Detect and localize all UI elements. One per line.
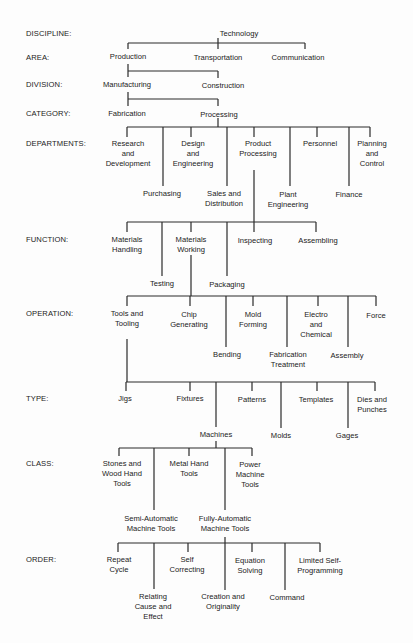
hierarchy-node: Force [366, 311, 385, 321]
hierarchy-node: Creation and Originality [201, 592, 244, 612]
hierarchy-node: Transportation [194, 53, 243, 63]
hierarchy-node: Relating Cause and Effect [135, 592, 172, 622]
hierarchy-node: Stones and Wood Hand Tools [102, 459, 142, 489]
hierarchy-node: Technology [220, 29, 258, 39]
level-label: DISCIPLINE: [26, 29, 71, 38]
hierarchy-node: Product Processing [239, 139, 277, 159]
level-label: AREA: [26, 53, 49, 62]
hierarchy-node: Testing [150, 279, 174, 289]
hierarchy-node: Fabrication Treatment [269, 350, 307, 370]
hierarchy-node: Manufacturing [103, 80, 151, 90]
hierarchy-node: Fully-Automatic Machine Tools [199, 514, 251, 534]
hierarchy-node: Dies and Punches [357, 395, 387, 415]
hierarchy-node: Semi-Automatic Machine Tools [124, 514, 178, 534]
hierarchy-node: Research and Development [106, 139, 151, 169]
hierarchy-node: Construction [202, 81, 245, 91]
hierarchy-node: Bending [213, 350, 241, 360]
level-label: OPERATION: [26, 309, 73, 318]
hierarchy-node: Inspecting [238, 236, 273, 246]
hierarchy-node: Purchasing [143, 189, 181, 199]
hierarchy-node: Electro and Chemical [300, 310, 332, 340]
level-label: TYPE: [26, 394, 48, 403]
hierarchy-node: Limited Self- Programming [297, 556, 343, 576]
hierarchy-node: Templates [299, 395, 334, 405]
hierarchy-node: Planning and Control [357, 139, 387, 169]
hierarchy-node: Fixtures [176, 394, 203, 404]
hierarchy-node: Materials Working [176, 235, 207, 255]
hierarchy-node: Plant Engineering [268, 190, 309, 210]
hierarchy-node: Communication [272, 53, 325, 63]
hierarchy-node: Finance [335, 190, 362, 200]
hierarchy-node: Patterns [238, 395, 266, 405]
hierarchy-node: Gages [336, 431, 358, 441]
hierarchy-node: Molds [271, 431, 291, 441]
hierarchy-node: Materials Handling [112, 235, 143, 255]
level-label: DIVISION: [26, 80, 62, 89]
hierarchy-node: Repeat Cycle [107, 555, 132, 575]
hierarchy-node: Mold Forming [239, 310, 267, 330]
level-label: ORDER: [26, 555, 56, 564]
hierarchy-node: Production [110, 52, 146, 62]
hierarchy-node: Tools and Tooling [111, 309, 144, 329]
hierarchy-node: Chip Generating [170, 310, 208, 330]
hierarchy-node: Metal Hand Tools [170, 459, 209, 479]
hierarchy-node: Design and Engineering [173, 139, 214, 169]
hierarchy-node: Equation Solving [235, 556, 265, 576]
hierarchy-node: Power Machine Tools [236, 460, 265, 490]
hierarchy-node: Sales and Distribution [205, 189, 243, 209]
level-label: FUNCTION: [26, 235, 68, 244]
hierarchy-node: Command [269, 593, 304, 603]
hierarchy-node: Machines [200, 430, 233, 440]
level-label: CATEGORY: [26, 109, 71, 118]
hierarchy-node: Jigs [118, 394, 132, 404]
hierarchy-node: Assembling [298, 236, 337, 246]
hierarchy-node: Processing [200, 110, 238, 120]
hierarchy-node: Personnel [303, 139, 337, 149]
hierarchy-node: Fabrication [108, 109, 146, 119]
level-label: CLASS: [26, 459, 54, 468]
level-label: DEPARTMENTS: [26, 139, 86, 148]
hierarchy-node: Assembly [331, 351, 364, 361]
hierarchy-node: Packaging [209, 280, 244, 290]
hierarchy-node: Self Correcting [169, 555, 204, 575]
